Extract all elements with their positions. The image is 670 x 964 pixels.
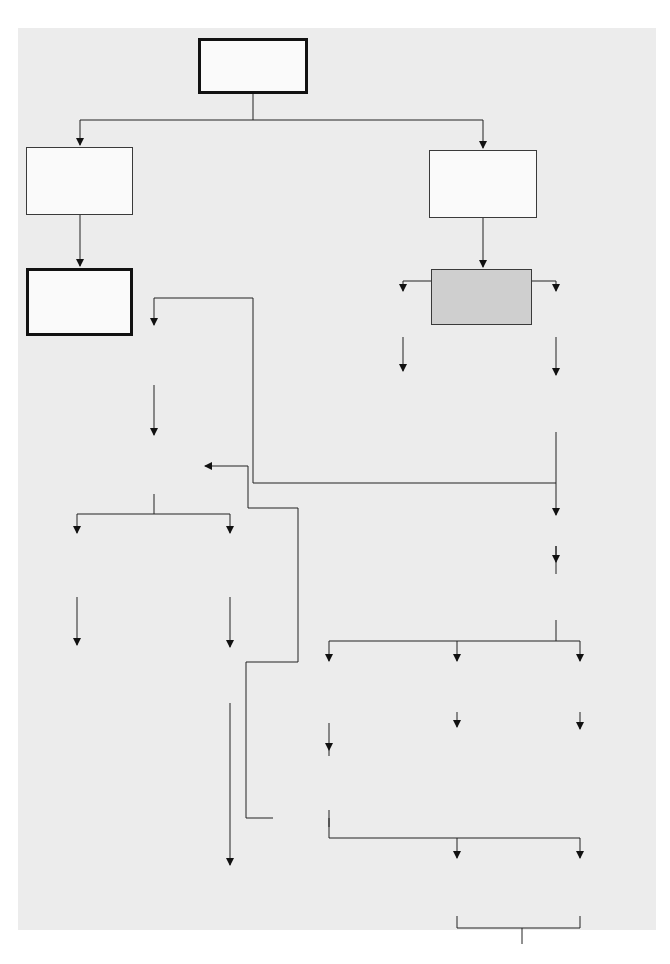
- connector-layer: [0, 0, 670, 964]
- node-assess-pcw: [431, 269, 532, 325]
- node-hypotension: [198, 38, 308, 94]
- node-immediately-life-threatening: [26, 147, 133, 215]
- node-see-figure-24-1: [26, 268, 133, 336]
- node-not-immediately-life-threatening: [429, 150, 537, 218]
